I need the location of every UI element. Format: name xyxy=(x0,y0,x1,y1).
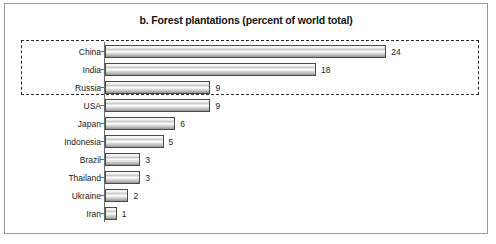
bar-row: Thailand3 xyxy=(5,169,488,187)
bar-usa xyxy=(105,99,210,112)
value-label-russia: 9 xyxy=(215,79,220,97)
value-label-india: 18 xyxy=(321,61,330,79)
bar-row: Indonesia5 xyxy=(5,133,488,151)
value-label-iran: 1 xyxy=(122,205,127,223)
bar-brazil xyxy=(105,153,140,166)
category-label-iran: Iran xyxy=(11,205,101,223)
bar-iran xyxy=(105,207,117,220)
axis-tick xyxy=(100,123,104,124)
bar-china xyxy=(105,45,386,58)
bar-russia xyxy=(105,81,210,94)
value-label-brazil: 3 xyxy=(145,151,150,169)
category-label-russia: Russia xyxy=(11,79,101,97)
bar-row: Ukraine2 xyxy=(5,187,488,205)
category-label-brazil: Brazil xyxy=(11,151,101,169)
bar-row: Brazil3 xyxy=(5,151,488,169)
bar-row: India18 xyxy=(5,61,488,79)
axis-tick xyxy=(100,69,104,70)
category-label-japan: Japan xyxy=(11,115,101,133)
plot-area: China24India18Russia9USA9Japan6Indonesia… xyxy=(5,4,488,234)
bar-india xyxy=(105,63,316,76)
category-label-ukraine: Ukraine xyxy=(11,187,101,205)
bar-japan xyxy=(105,117,175,130)
value-label-indonesia: 5 xyxy=(169,133,174,151)
bar-indonesia xyxy=(105,135,164,148)
value-label-usa: 9 xyxy=(215,97,220,115)
chart-figure: b. Forest plantations (percent of world … xyxy=(4,3,488,234)
bar-thailand xyxy=(105,171,140,184)
bar-row: Japan6 xyxy=(5,115,488,133)
value-label-ukraine: 2 xyxy=(133,187,138,205)
axis-tick xyxy=(100,195,104,196)
category-label-indonesia: Indonesia xyxy=(11,133,101,151)
value-label-thailand: 3 xyxy=(145,169,150,187)
bar-ukraine xyxy=(105,189,128,202)
category-label-india: India xyxy=(11,61,101,79)
bar-row: Russia9 xyxy=(5,79,488,97)
value-label-china: 24 xyxy=(391,43,400,61)
axis-tick xyxy=(100,177,104,178)
axis-tick xyxy=(100,87,104,88)
axis-tick xyxy=(100,141,104,142)
axis-tick xyxy=(100,213,104,214)
axis-tick xyxy=(100,159,104,160)
category-label-usa: USA xyxy=(11,97,101,115)
bar-row: China24 xyxy=(5,43,488,61)
category-label-china: China xyxy=(11,43,101,61)
bar-row: USA9 xyxy=(5,97,488,115)
axis-tick xyxy=(100,105,104,106)
axis-tick xyxy=(100,51,104,52)
value-label-japan: 6 xyxy=(180,115,185,133)
bar-row: Iran1 xyxy=(5,205,488,223)
category-label-thailand: Thailand xyxy=(11,169,101,187)
